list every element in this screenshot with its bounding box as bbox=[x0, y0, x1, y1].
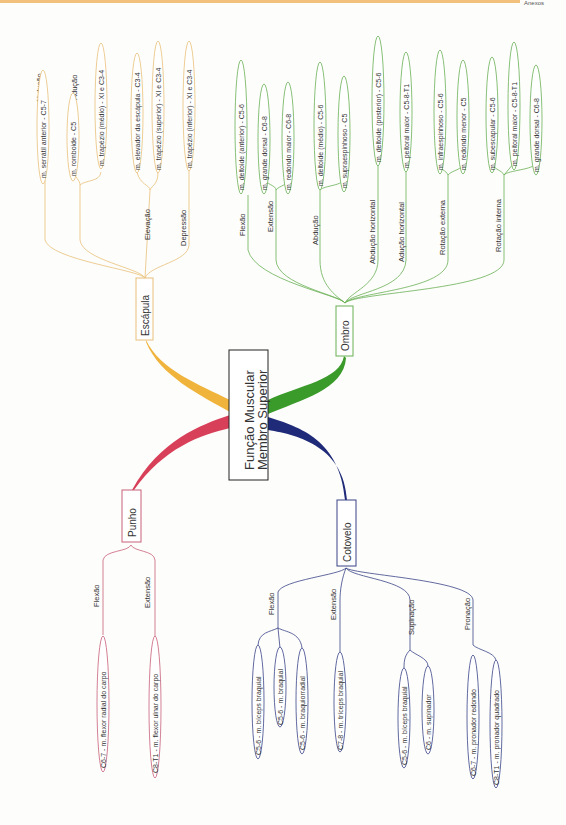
leaf-item: m. elevador da escápula - C3-4 bbox=[134, 72, 142, 170]
leaf-item: m. supraespinhoso - C5 bbox=[341, 114, 349, 188]
leaf-item: C6-7 - m. flexor radial do carpo bbox=[100, 671, 108, 768]
leaf-item: m. deltoide (anterior) - C5-6 bbox=[238, 104, 246, 190]
node-cotovelo[interactable]: Cotovelo bbox=[337, 500, 356, 566]
leaf-item: C5-6 - m. bíceps braquial bbox=[255, 676, 263, 755]
group-label: Pronação bbox=[463, 598, 472, 630]
branch-escapula bbox=[45, 170, 189, 278]
leaf-item: C6-7 - m. pronador redondo bbox=[470, 689, 478, 776]
group-label: Rotação interna bbox=[494, 198, 503, 252]
node-punho[interactable]: Punho bbox=[122, 490, 141, 542]
leaf-item: m. deltoide (médio) - C5-6 bbox=[317, 105, 325, 186]
group-label: Supinação bbox=[407, 600, 416, 635]
group-label: Flexão bbox=[267, 592, 276, 615]
label-cotovelo: Cotovelo bbox=[342, 522, 353, 562]
leaf-item: m. grande dorsal - C6-8 bbox=[533, 98, 541, 172]
group-label: Extensão bbox=[143, 577, 152, 608]
label-ombro: Ombro bbox=[340, 320, 351, 351]
group-label: Adução horizontal bbox=[397, 202, 406, 262]
leaf-item: C6 - m. supinador bbox=[425, 694, 433, 750]
group-label: Extensão bbox=[329, 589, 338, 620]
leaf-item: C5-6 - m. bíceps braquial bbox=[401, 686, 409, 765]
group-label: Rotação externa bbox=[438, 199, 447, 255]
group-label: Flexão bbox=[238, 213, 247, 236]
leaf-item: m. subescapular - C5-6 bbox=[489, 97, 497, 170]
leaf-item: m. peitoral maior - C5-8-T1 bbox=[403, 84, 411, 168]
label-punho: Punho bbox=[127, 508, 138, 537]
leaf-item: C5-6 - m. braquiorradial bbox=[299, 676, 307, 750]
leaf-group-escapula bbox=[37, 41, 195, 184]
leaf-item: m. trapézio (superior) - XI e C3-4 bbox=[155, 68, 163, 170]
leaf-item: C5-6 - m. braquial bbox=[277, 669, 285, 725]
leaf-item: C8-T1 - m. flexor ulnar do carpo bbox=[152, 674, 160, 773]
group-label: Depressão bbox=[179, 210, 188, 246]
leaf-item: m. redondo menor - C5 bbox=[460, 98, 467, 170]
leaf-item: m. romboide - C5 bbox=[70, 122, 77, 176]
leaf-item: C7-8 - m. tríceps braquial bbox=[337, 671, 345, 750]
leaf-item: m. redondo maior - C6-8 bbox=[285, 114, 292, 190]
central-title-line2: Membro Superior bbox=[255, 369, 270, 470]
label-escapula: Escápula bbox=[140, 294, 151, 336]
group-label: Flexão bbox=[92, 584, 101, 607]
group-label: Abdução horizontal bbox=[368, 199, 377, 264]
central-topic[interactable]: Função Muscular Membro Superior bbox=[229, 350, 270, 480]
leaf-group-cotovelo bbox=[252, 645, 502, 788]
leaf-item: m. trapézio (médio) - XI e C3-4 bbox=[98, 70, 106, 166]
mind-map: Função Muscular Membro Superior Escápula… bbox=[0, 0, 566, 825]
node-ombro[interactable]: Ombro bbox=[336, 306, 353, 356]
leaf-item: m. infraespinhoso - C5-6 bbox=[437, 93, 445, 170]
group-label: Elevação bbox=[143, 209, 152, 240]
leaf-item: m. deltoide (posterior) - C5-6 bbox=[375, 72, 383, 162]
connector-cotovelo bbox=[268, 417, 347, 500]
branch-cotovelo bbox=[258, 568, 496, 668]
leaf-item: C8-T1 - m. pronador quadrado bbox=[493, 690, 501, 785]
group-label: Extensão bbox=[266, 201, 275, 232]
leaf-item: m. peitoral maior - C5-8-T1 bbox=[511, 82, 519, 166]
leaf-item: m. serrátil anterior - C5-7 bbox=[40, 100, 47, 178]
group-label: Abdução bbox=[311, 215, 320, 245]
leaf-item: m. trapézio (inferior) - XI e C3-4 bbox=[186, 69, 194, 168]
leaf-item: m. grande dorsal - C6-8 bbox=[261, 116, 269, 190]
connector-escapula bbox=[146, 340, 230, 412]
connector-punho bbox=[132, 415, 230, 490]
node-escapula[interactable]: Escápula bbox=[136, 278, 153, 340]
connector-ombro bbox=[268, 356, 346, 414]
